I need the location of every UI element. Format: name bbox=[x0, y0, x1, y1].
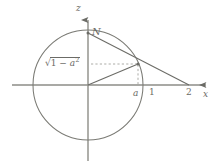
z-axis-label: z bbox=[76, 4, 81, 13]
height-expression-label: √1 − a2 bbox=[45, 57, 80, 68]
x-axis-label: x bbox=[203, 90, 208, 99]
projection-ray bbox=[88, 33, 189, 85]
radicand: 1 − a2 bbox=[50, 57, 81, 68]
tick-label-two: 2 bbox=[186, 88, 192, 97]
tick-label-a: a bbox=[133, 89, 138, 98]
north-pole-point bbox=[87, 32, 90, 35]
radius-segment bbox=[88, 64, 138, 85]
tick-label-one: 1 bbox=[149, 88, 155, 97]
exponent-two: 2 bbox=[75, 56, 79, 64]
projection-point bbox=[137, 63, 140, 66]
minus-sign: − bbox=[56, 58, 69, 68]
figure-canvas bbox=[0, 0, 224, 167]
north-pole-label: N bbox=[92, 27, 101, 37]
geometry-figure: z x N a 1 2 √1 − a2 bbox=[0, 0, 224, 167]
